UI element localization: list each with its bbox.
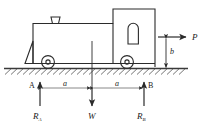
dimension-a-right-label: a <box>115 79 119 88</box>
cab-outline <box>113 9 155 67</box>
dimension-b-label: b <box>170 47 174 56</box>
reaction-a-label: RA <box>32 111 43 122</box>
point-b-label: B <box>148 81 153 90</box>
dimension-b-group: b <box>166 39 174 68</box>
force-p-label: P <box>191 32 198 42</box>
dimension-a-left-label: a <box>63 79 67 88</box>
locomotive-body <box>25 9 155 68</box>
boiler-outline <box>33 24 113 64</box>
rear-wheel <box>121 56 134 69</box>
smokestack <box>51 17 60 24</box>
force-w-group: W <box>88 88 97 121</box>
cowcatcher <box>25 41 33 64</box>
force-p-group: P <box>158 32 198 42</box>
cab-window <box>128 23 138 44</box>
locomotive-diagram-svg: P b W RA A RB B a <box>0 0 208 125</box>
front-wheel <box>42 56 55 69</box>
reaction-a-group: RA A <box>29 81 43 122</box>
reaction-b-group: RB B <box>136 81 153 122</box>
ground-group <box>4 69 188 75</box>
point-a-label: A <box>29 81 35 90</box>
force-w-label: W <box>88 111 97 121</box>
reaction-b-label: RB <box>136 111 146 122</box>
ground-hatching <box>5 69 185 75</box>
figure-container: P b W RA A RB B a <box>0 0 208 125</box>
